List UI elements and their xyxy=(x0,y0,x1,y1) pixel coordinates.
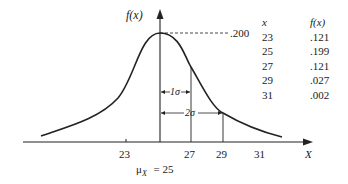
table-row: 31 .002 xyxy=(262,88,348,103)
y-axis-arrow-icon xyxy=(157,9,164,19)
table-row: 25 .199 xyxy=(262,44,348,59)
table-cell-fx: .121 xyxy=(310,30,348,45)
table-cell-x: 27 xyxy=(262,59,310,74)
table-row: 27 .121 xyxy=(262,59,348,74)
tick-label-27: 27 xyxy=(184,148,195,160)
tick-label-29: 29 xyxy=(216,148,227,160)
table-cell-fx: .027 xyxy=(310,73,348,88)
arrowhead-icon xyxy=(186,90,190,94)
density-curve xyxy=(41,33,282,137)
table-cell-x: 31 xyxy=(262,88,310,103)
two-sigma-label: 2σ xyxy=(185,107,195,119)
values-table: x f(x) 23 .121 25 .199 27 .121 29 .027 3… xyxy=(262,15,348,103)
table-cell-fx: .121 xyxy=(310,59,348,74)
arrowhead-icon xyxy=(161,90,165,94)
mu-subscript: X xyxy=(142,169,147,178)
table-cell-x: 23 xyxy=(262,30,310,45)
table-row: 23 .121 xyxy=(262,30,348,45)
mean-label: μX = 25 xyxy=(136,163,174,177)
tick-label-23: 23 xyxy=(119,148,130,160)
x-axis-arrow-icon xyxy=(303,139,313,146)
arrowhead-icon xyxy=(161,111,165,115)
tick-label-31: 31 xyxy=(254,148,265,160)
mu-value: = 25 xyxy=(154,163,174,175)
one-sigma-label: 1σ xyxy=(170,86,180,98)
table-header-fx: f(x) xyxy=(310,15,348,30)
table-row: 29 .027 xyxy=(262,73,348,88)
table-header: x f(x) xyxy=(262,15,348,30)
table-cell-fx: .199 xyxy=(310,44,348,59)
x-axis-label: X xyxy=(305,148,312,160)
y-axis-label: f(x) xyxy=(126,9,143,21)
peak-value-label: .200 xyxy=(230,27,249,39)
table-header-x: x xyxy=(262,15,310,30)
table-cell-x: 25 xyxy=(262,44,310,59)
table-cell-x: 29 xyxy=(262,73,310,88)
table-cell-fx: .002 xyxy=(310,88,348,103)
